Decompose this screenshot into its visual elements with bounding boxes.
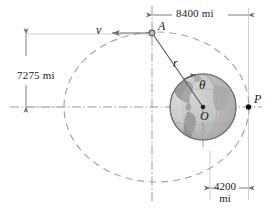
dimension-4200-value: 4200 [214, 181, 236, 193]
dimension-8400-label: 8400 mi [176, 8, 214, 20]
theta-label: θ [199, 78, 205, 92]
orbit-diagram: 8400 mi 7275 mi 4200 mi A P O v r θ [0, 0, 271, 210]
dimension-4200-unit: mi [214, 193, 236, 205]
diagram-canvas [0, 0, 271, 210]
radius-label: r [173, 57, 178, 70]
point-a-marker [149, 30, 155, 36]
point-a-label: A [158, 20, 165, 33]
point-p-label: P [254, 93, 261, 106]
velocity-label: v [96, 24, 101, 37]
dimension-7275-label: 7275 mi [17, 70, 55, 82]
point-p-marker [246, 104, 251, 109]
point-o-label: O [200, 110, 209, 123]
dimension-4200-label: 4200 mi [214, 181, 236, 204]
